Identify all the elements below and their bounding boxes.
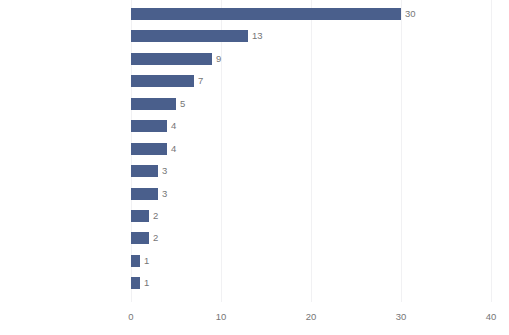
- bar[interactable]: [131, 277, 140, 289]
- bar-row: Muscle relaxants13: [131, 25, 491, 47]
- bar[interactable]: [131, 8, 401, 20]
- bar-value-label: 13: [252, 30, 263, 42]
- bar-row: Sedatives3: [131, 160, 491, 182]
- bar[interactable]: [131, 188, 158, 200]
- bar-row: Non-NSAIDs, topical3: [131, 182, 491, 204]
- gridline: [491, 0, 492, 302]
- bar-row: NSAIDs, oral30: [131, 3, 491, 25]
- bar-value-label: 3: [162, 188, 167, 200]
- bar-row: Opioids4: [131, 115, 491, 137]
- bar-chart: NSAIDs, oral30Muscle relaxants13Anticonv…: [0, 0, 509, 335]
- bar[interactable]: [131, 53, 212, 65]
- bar-row: Acetaminophen5: [131, 93, 491, 115]
- bar-value-label: 4: [171, 143, 176, 155]
- bar-value-label: 5: [180, 98, 185, 110]
- bar-row: Antidepressants7: [131, 70, 491, 92]
- bar-value-label: 4: [171, 120, 176, 132]
- bar-value-label: 3: [162, 165, 167, 177]
- bar-value-label: 1: [144, 277, 149, 289]
- bar-row: Corticosteroid, oral1: [131, 250, 491, 272]
- bar[interactable]: [131, 165, 158, 177]
- x-tick-label: 0: [128, 311, 133, 322]
- bar-row: Dietary supplements, oral1: [131, 272, 491, 294]
- x-tick-label: 10: [216, 311, 227, 322]
- bar[interactable]: [131, 232, 149, 244]
- plot-area: NSAIDs, oral30Muscle relaxants13Anticonv…: [131, 0, 491, 302]
- bar-value-label: 9: [216, 53, 221, 65]
- bar-row: NSAIDs, topical4: [131, 137, 491, 159]
- x-tick-label: 40: [486, 311, 497, 322]
- bar-value-label: 7: [198, 75, 203, 87]
- bar[interactable]: [131, 98, 176, 110]
- bar-value-label: 30: [405, 8, 416, 20]
- bar-value-label: 2: [153, 232, 158, 244]
- bar[interactable]: [131, 210, 149, 222]
- bar[interactable]: [131, 255, 140, 267]
- bar-row: Cannabinoids2: [131, 227, 491, 249]
- x-tick-label: 30: [396, 311, 407, 322]
- bar-value-label: 1: [144, 255, 149, 267]
- bar[interactable]: [131, 30, 248, 42]
- bar-row: NSAIDs, injection2: [131, 205, 491, 227]
- bar[interactable]: [131, 120, 167, 132]
- bar[interactable]: [131, 75, 194, 87]
- bar-value-label: 2: [153, 210, 158, 222]
- bar-row: Anticonvulsants9: [131, 48, 491, 70]
- x-axis: 010203040: [131, 302, 491, 335]
- bar[interactable]: [131, 143, 167, 155]
- x-tick-label: 20: [306, 311, 317, 322]
